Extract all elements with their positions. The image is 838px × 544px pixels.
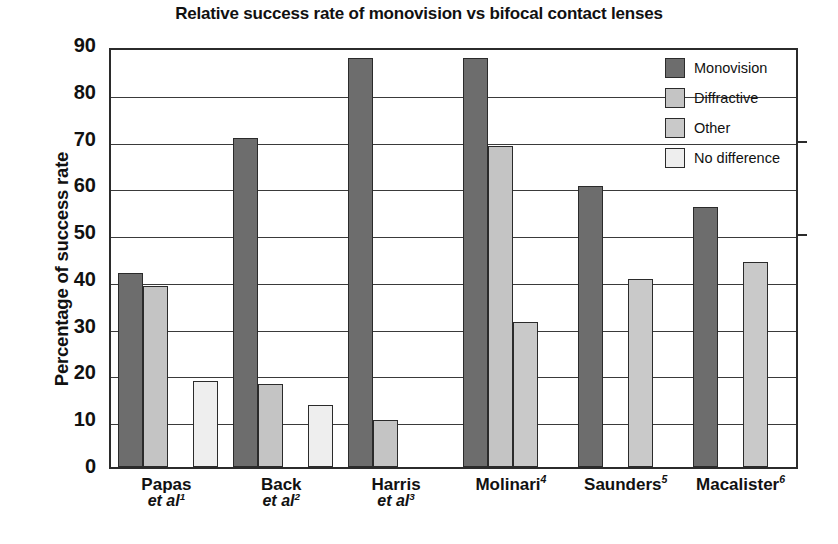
legend-swatch-icon	[665, 118, 685, 138]
gridline-60	[111, 190, 796, 191]
x-axis-label-etal: et al1	[109, 493, 224, 509]
bar	[258, 384, 283, 467]
y-tick-label-50: 50	[36, 221, 96, 244]
x-axis-label-macalister: Macalister6	[683, 476, 798, 493]
citation-superscript: 6	[779, 473, 785, 485]
citation-superscript: 3	[409, 491, 415, 502]
legend-item-monovision[interactable]: Monovision	[665, 54, 793, 82]
bar	[233, 138, 258, 467]
bar	[513, 322, 538, 467]
bar	[628, 279, 653, 467]
x-axis-label-name: Saunders	[584, 475, 661, 494]
x-axis-label-name: Molinari	[475, 475, 540, 494]
bar	[308, 405, 333, 467]
legend-swatch-icon	[665, 58, 685, 78]
y-tick-label-60: 60	[36, 174, 96, 197]
legend-item-label: Other	[694, 120, 730, 136]
chart-title: Relative success rate of monovision vs b…	[0, 4, 838, 24]
y-tick-label-70: 70	[36, 128, 96, 151]
bar	[693, 207, 718, 467]
bar	[463, 58, 488, 467]
x-axis-label-back: Backet al2	[224, 476, 339, 510]
x-axis-label-saunders: Saunders5	[568, 476, 683, 493]
citation-superscript: 5	[662, 473, 668, 485]
legend-item-label: Diffractive	[694, 90, 758, 106]
citation-superscript: 1	[180, 491, 186, 502]
bar	[348, 58, 373, 467]
y-tick-label-90: 90	[36, 34, 96, 57]
citation-superscript: 4	[541, 473, 547, 485]
x-axis-label-harris: Harriset al3	[339, 476, 454, 510]
bar	[578, 186, 603, 467]
bar	[143, 286, 168, 467]
x-axis-label-etal: et al2	[224, 493, 339, 509]
bar	[193, 381, 218, 467]
bar	[743, 262, 768, 467]
right-axis-tick	[798, 234, 807, 236]
x-axis-label-papas: Papaset al1	[109, 476, 224, 510]
x-axis-label-etal: et al3	[339, 493, 454, 509]
bar	[488, 146, 513, 467]
legend-item-no-difference[interactable]: No difference	[665, 144, 793, 172]
x-axis-label-molinari: Molinari4	[454, 476, 569, 493]
legend-item-label: No difference	[694, 150, 780, 166]
y-tick-label-10: 10	[36, 408, 96, 431]
y-tick-label-80: 80	[36, 81, 96, 104]
citation-superscript: 2	[294, 491, 300, 502]
bar	[373, 420, 398, 467]
y-tick-label-30: 30	[36, 315, 96, 338]
legend-swatch-icon	[665, 88, 685, 108]
legend-item-other[interactable]: Other	[665, 114, 793, 142]
bar	[118, 273, 143, 467]
y-tick-label-0: 0	[36, 455, 96, 478]
legend-item-diffractive[interactable]: Diffractive	[665, 84, 793, 112]
x-axis-label-name: Macalister	[696, 475, 779, 494]
y-tick-label-20: 20	[36, 361, 96, 384]
chart-legend: MonovisionDiffractiveOtherNo difference	[665, 54, 793, 174]
right-axis-tick	[798, 141, 807, 143]
y-tick-label-40: 40	[36, 268, 96, 291]
legend-item-label: Monovision	[694, 60, 767, 76]
legend-swatch-icon	[665, 148, 685, 168]
